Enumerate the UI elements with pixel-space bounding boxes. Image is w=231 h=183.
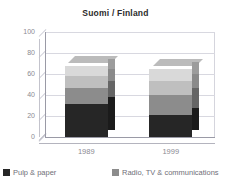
bar-side-face bbox=[192, 62, 199, 130]
chart-container: Suomi / Finland 020406080100 19891999 Pu… bbox=[0, 0, 231, 183]
bar-side-face bbox=[108, 59, 115, 130]
x-axis-line bbox=[45, 137, 215, 138]
y-axis-tick-label: 0 bbox=[4, 133, 35, 140]
x-axis-tick-label: 1989 bbox=[59, 147, 114, 156]
bar-segment-side bbox=[192, 62, 199, 75]
y-axis-tick-label: 60 bbox=[4, 70, 35, 77]
plot-left-edge bbox=[39, 39, 40, 137]
legend-label: Pulp & paper bbox=[13, 168, 56, 177]
plot-area bbox=[39, 32, 215, 144]
bar-segment bbox=[65, 104, 108, 137]
y-axis-line bbox=[45, 32, 46, 138]
x-axis-tick-label: 1999 bbox=[143, 147, 198, 156]
bar-segment-side bbox=[192, 88, 199, 108]
gridline bbox=[45, 53, 215, 54]
bar-segment bbox=[65, 88, 108, 105]
bar-segment bbox=[149, 69, 192, 82]
bar-front-face bbox=[65, 66, 108, 137]
bar-segment-side bbox=[108, 81, 115, 98]
plot-floor-edge bbox=[39, 143, 215, 144]
bar-segment-side bbox=[108, 69, 115, 81]
bar-segment-side bbox=[108, 97, 115, 130]
y-axis-tick-label: 40 bbox=[4, 91, 35, 98]
legend-swatch bbox=[112, 169, 119, 176]
bar-segment-side bbox=[192, 108, 199, 130]
bar-segment bbox=[65, 76, 108, 88]
bar-segment bbox=[149, 95, 192, 115]
chart-legend: Pulp & paperRadio, TV & communications bbox=[0, 168, 231, 182]
bar-segment-side bbox=[108, 59, 115, 70]
legend-item[interactable]: Pulp & paper bbox=[3, 168, 56, 177]
legend-item[interactable]: Radio, TV & communications bbox=[112, 168, 219, 177]
bar-segment bbox=[149, 115, 192, 137]
gridline bbox=[45, 32, 215, 33]
bar-segment-side bbox=[192, 74, 199, 88]
bar-segment bbox=[65, 66, 108, 77]
legend-label: Radio, TV & communications bbox=[122, 168, 219, 177]
bar-segment bbox=[149, 81, 192, 95]
chart-title: Suomi / Finland bbox=[0, 8, 231, 18]
y-axis-tick-label: 20 bbox=[4, 112, 35, 119]
bar-front-face bbox=[149, 69, 192, 137]
legend-swatch bbox=[3, 169, 10, 176]
y-axis-tick-label: 80 bbox=[4, 49, 35, 56]
y-axis-tick-label: 100 bbox=[4, 28, 35, 35]
